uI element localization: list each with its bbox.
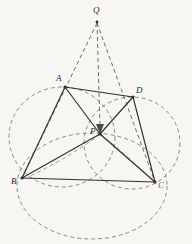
vertex-dots — [20, 21, 156, 184]
point-label-B: B — [11, 177, 17, 186]
vertex-dot-C — [153, 180, 156, 183]
geometry-canvas — [0, 0, 192, 244]
dashed-cevians-from-Q — [22, 23, 155, 182]
dashed-Q-C — [97, 23, 155, 182]
point-label-A: A — [56, 74, 62, 83]
vertex-dot-D — [131, 95, 134, 98]
vertex-dot-P — [98, 132, 101, 135]
vertex-dot-B — [20, 176, 23, 179]
vertex-dot-Q — [96, 21, 99, 24]
dashed-lower-arcs — [30, 134, 152, 180]
segment-B-P — [22, 134, 100, 178]
geometry-figure: Q A D B C P — [0, 0, 192, 244]
point-label-D: D — [136, 86, 143, 95]
point-label-C: C — [158, 181, 164, 190]
segment-A-B — [22, 87, 65, 178]
dashed-circles — [9, 87, 180, 239]
point-label-Q: Q — [93, 6, 100, 15]
vertex-dot-A — [63, 85, 66, 88]
segment-D-C — [133, 97, 155, 182]
segment-B-C — [22, 178, 155, 182]
circle-B-P-C — [17, 133, 167, 239]
segment-D-P — [100, 97, 133, 134]
solid-figure — [22, 87, 155, 182]
point-label-P: P — [90, 127, 96, 136]
